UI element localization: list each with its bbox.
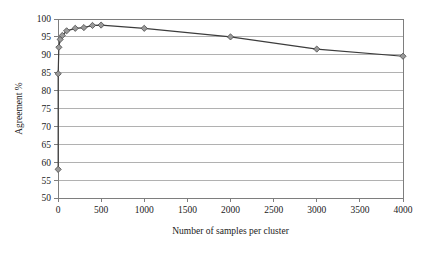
chart-figure: 05001000150020002500300035004000 5055606… [0,0,440,261]
y-tick-label: 85 [42,68,52,78]
y-tick-label: 65 [42,140,52,150]
x-tick-label: 1000 [135,205,154,215]
y-tick-label: 70 [42,122,52,132]
y-tick-label: 80 [42,86,52,96]
y-tick-label: 100 [37,14,52,24]
x-tick-label: 4000 [394,205,413,215]
x-tick-label: 3000 [307,205,326,215]
x-tick-label: 1500 [178,205,197,215]
y-tick-label: 50 [42,193,52,203]
y-tick-label: 90 [42,50,52,60]
y-tick-label: 95 [42,32,52,42]
x-tick-label: 2000 [221,205,240,215]
x-axis-title: Number of samples per cluster [172,226,289,236]
y-axis-title: Agreement % [14,82,24,135]
y-tick-label: 75 [42,104,52,114]
y-tick-label: 55 [42,176,52,186]
x-tick-label: 3500 [350,205,369,215]
agreement-vs-samples-line-chart: 05001000150020002500300035004000 5055606… [0,0,440,261]
y-tick-label: 60 [42,158,52,168]
x-tick-label: 500 [94,205,109,215]
x-tick-label: 2500 [264,205,283,215]
chart-background [0,0,440,261]
x-tick-label: 0 [56,205,61,215]
